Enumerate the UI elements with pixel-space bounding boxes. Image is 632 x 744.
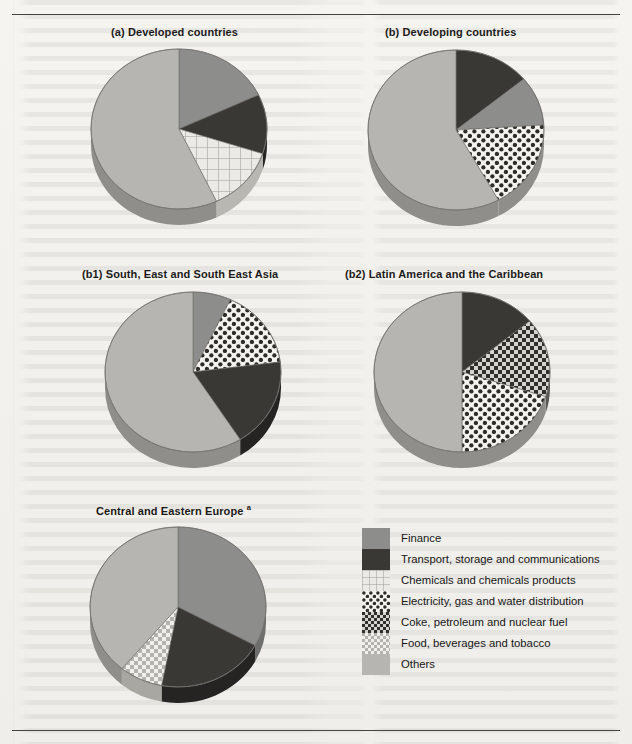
legend-item-chemicals: Chemicals and chemicals products	[362, 570, 600, 591]
chart-title-b1: (b1) South, East and South East Asia	[82, 268, 278, 280]
legend-swatch-finance	[362, 528, 390, 549]
legend-item-coke: Coke, petroleum and nuclear fuel	[362, 612, 600, 633]
legend-label-food: Food, beverages and tobacco	[401, 633, 550, 654]
legend-item-finance: Finance	[362, 528, 600, 549]
legend-label-coke: Coke, petroleum and nuclear fuel	[401, 612, 567, 633]
legend-item-electricity: Electricity, gas and water distribution	[362, 591, 600, 612]
chart-title-b2: (b2) Latin America and the Caribbean	[345, 268, 543, 280]
legend-swatch-coke	[362, 612, 390, 633]
pie-chart-south-east-asia	[101, 290, 293, 468]
legend-swatch-chemicals	[362, 570, 390, 591]
legend: Finance Transport, storage and communica…	[362, 528, 600, 675]
chart-title-b2-text: (b2) Latin America and the Caribbean	[345, 268, 543, 280]
legend-swatch-others	[362, 654, 390, 675]
pie-chart-latin-america	[370, 290, 562, 468]
legend-item-others: Others	[362, 654, 600, 675]
legend-swatch-food	[362, 633, 390, 654]
chart-title-b: (b) Developing countries	[385, 26, 516, 38]
bottom-horizontal-rule	[12, 730, 620, 731]
chart-title-c: Central and Eastern Europe a	[96, 503, 251, 517]
legend-swatch-electricity	[362, 591, 390, 612]
pie-chart-central-eastern-europe	[86, 525, 278, 703]
pie-chart-developing-countries	[364, 48, 556, 226]
legend-label-transport: Transport, storage and communications	[401, 549, 600, 570]
chart-title-c-superscript: a	[247, 503, 251, 512]
chart-title-a: (a) Developed countries	[111, 26, 238, 38]
legend-label-chemicals: Chemicals and chemicals products	[401, 570, 576, 591]
chart-title-b1-text: (b1) South, East and South East Asia	[82, 268, 278, 280]
legend-swatch-transport	[362, 549, 390, 570]
legend-item-transport: Transport, storage and communications	[362, 549, 600, 570]
chart-title-b-text: (b) Developing countries	[385, 26, 516, 38]
chart-title-c-text: Central and Eastern Europe	[96, 505, 243, 517]
pie-chart-developed-countries	[86, 48, 278, 226]
legend-label-electricity: Electricity, gas and water distribution	[401, 591, 584, 612]
legend-label-finance: Finance	[401, 528, 441, 549]
legend-label-others: Others	[401, 654, 435, 675]
chart-title-a-text: (a) Developed countries	[111, 26, 238, 38]
top-horizontal-rule	[12, 14, 620, 15]
legend-item-food: Food, beverages and tobacco	[362, 633, 600, 654]
